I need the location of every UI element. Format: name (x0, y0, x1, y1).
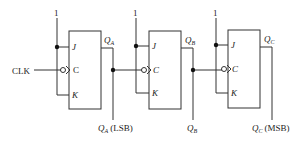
ripple-counter-diagram: 1 1 1 CLK J C K QA J C K QB J C K QC QA(… (0, 0, 299, 144)
tap-label-c: QC(MSB) (252, 123, 290, 134)
output-label-a: QA (104, 35, 115, 46)
output-label-b: QB (185, 35, 196, 46)
pin-c-b: C (153, 65, 160, 75)
supply-label-b: 1 (133, 8, 138, 18)
pin-j-a: J (72, 42, 77, 52)
pin-k-a: K (71, 90, 79, 100)
pin-k-c: K (230, 88, 238, 98)
pin-k-b: K (151, 88, 159, 98)
supply-label-a: 1 (54, 8, 59, 18)
output-label-c: QC (264, 34, 276, 45)
tap-label-a: QA(LSB) (98, 123, 133, 134)
tap-label-b: QB (187, 123, 198, 134)
supply-label-c: 1 (213, 8, 218, 18)
pin-c-c: C (232, 64, 239, 74)
pin-j-b: J (152, 41, 157, 51)
pin-j-c: J (231, 40, 236, 50)
pin-c-a: C (73, 65, 79, 75)
clock-label: CLK (12, 66, 31, 76)
